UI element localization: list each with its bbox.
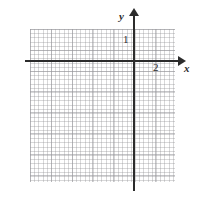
x-tick-label-2: 2 [153,62,159,73]
major-gridlines [30,29,175,182]
y-axis-label: y [119,11,124,22]
y-tick-label-1: 1 [123,34,129,45]
y-axis-line [133,14,135,191]
y-axis-arrow-icon [129,8,139,16]
coordinate-plane-figure: y x 2 1 [0,0,200,197]
x-axis-label: x [184,63,190,74]
grid-area [30,29,175,182]
